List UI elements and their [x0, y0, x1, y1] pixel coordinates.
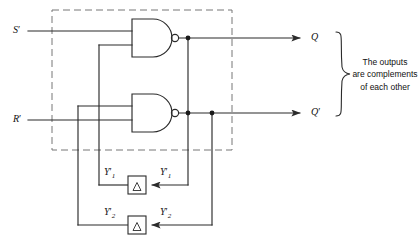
- nand-gate-bottom-body: [132, 94, 172, 132]
- q-output-label: Q: [311, 32, 318, 42]
- delay-element-1: [128, 176, 146, 194]
- y1-output-label: Y′1: [104, 167, 115, 180]
- wire-junctions: [186, 36, 215, 116]
- junction-dot-qprime-tap: [210, 111, 215, 116]
- y1-input-label: Y′1: [160, 167, 171, 180]
- qprime-output-label: Q′: [311, 107, 320, 117]
- junction-dot-qprime: [186, 111, 191, 116]
- circuit-diagram-canvas: S′ R′ Q Q′ Y′1 Y′1 Y′2 Y′2 The outputs a…: [0, 0, 420, 238]
- r-input-label: R′: [13, 114, 21, 124]
- outputs-annotation-text: The outputs are complements of each othe…: [352, 56, 418, 93]
- outputs-curly-brace: [336, 32, 350, 116]
- y2-output-label: Y′2: [104, 207, 115, 220]
- s-input-label: S′: [13, 25, 20, 35]
- circuit-wiring-layer: [0, 0, 420, 238]
- y2-input-label: Y′2: [160, 207, 171, 220]
- nand-gate-top-body: [132, 19, 172, 57]
- delay-element-2: [128, 216, 146, 234]
- junction-dot-q: [186, 36, 191, 41]
